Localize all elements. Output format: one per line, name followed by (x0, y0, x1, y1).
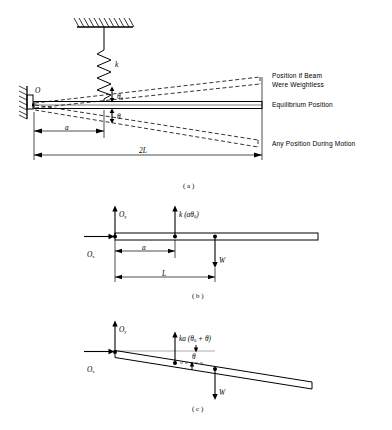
pivot-label-a: O (35, 86, 40, 95)
dimension-L-label-b: L (162, 269, 166, 278)
spring-dot-c (173, 361, 177, 365)
force-W-label-b: W (219, 256, 225, 265)
force-Oy-label-b: Oy (119, 203, 127, 221)
caption-a: ( a ) (183, 182, 194, 190)
theta-arrow (110, 109, 115, 124)
spring (97, 27, 111, 108)
force-Ox-b (84, 234, 115, 239)
force-spring-label-b: k (aθ0) (179, 203, 199, 221)
dimension-a-label-b: a (142, 243, 146, 252)
annotation-weightless-line1: Position if Beam (272, 72, 322, 79)
weight-dot-b (213, 235, 217, 239)
force-W-b (212, 237, 217, 269)
theta-zero-label: θ0 (117, 85, 123, 103)
force-Oy-label-c: Oy (119, 318, 127, 336)
ceiling-support (74, 18, 134, 27)
force-spring-label-c: ka (θ0 + θ) (179, 327, 211, 345)
theta-label-c: θ (192, 352, 196, 361)
caption-b: ( b ) (192, 292, 204, 300)
annotation-weightless-line2: Were Weightless (272, 81, 324, 88)
weight-dot-c (213, 367, 217, 371)
spring-constant-label: k (115, 60, 118, 69)
force-Ox-label-c: Ox (87, 358, 95, 376)
annotation-equilibrium: Equilibrium Position (272, 101, 333, 108)
force-spring-b (172, 206, 177, 237)
force-Oy-b (112, 206, 117, 237)
force-spring-c (172, 332, 177, 364)
panel-a (19, 18, 262, 160)
force-Oy-c (112, 321, 117, 353)
beam-equilibrium (34, 102, 262, 109)
force-Ox-label-b: Ox (87, 243, 95, 261)
dimension-2L (34, 138, 262, 160)
pivot-dot-c (113, 350, 117, 354)
theta-label-a: θ (117, 112, 121, 121)
caption-c: ( c ) (192, 405, 203, 413)
force-Ox-c (84, 349, 115, 354)
annotation-any-position: Any Position During Motion (272, 140, 355, 147)
force-W-label-c: W (219, 388, 225, 397)
dimension-2L-label: 2L (139, 146, 147, 155)
dimension-a-label: a (65, 123, 69, 132)
spring-dot-b (173, 235, 177, 239)
